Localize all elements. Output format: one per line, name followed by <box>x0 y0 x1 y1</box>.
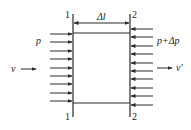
outlet-velocity-label: v′ <box>176 62 183 73</box>
right-pressure-arrows <box>131 29 153 105</box>
fluid-element-diagram: Δl 1 1 2 2 p p+Δp v v′ <box>0 0 191 130</box>
length-label: Δl <box>96 11 106 22</box>
inlet-velocity-label: v <box>11 63 16 74</box>
section-2-bottom-label: 2 <box>132 111 137 122</box>
left-pressure-arrows <box>50 34 72 101</box>
right-pressure-label: p+Δp <box>156 35 180 46</box>
section-1-bottom-label: 1 <box>65 111 70 122</box>
section-2-top-label: 2 <box>132 9 137 20</box>
left-pressure-label: p <box>35 35 41 46</box>
section-1-top-label: 1 <box>65 9 70 20</box>
